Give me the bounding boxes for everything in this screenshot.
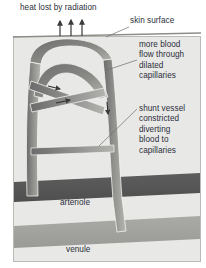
arteriole-label: arteriole (60, 198, 90, 208)
diagram-figure: heat lost by radiation skin surface more… (0, 0, 206, 268)
venule-label: venule (66, 245, 90, 255)
heat-loss-label: heat lost by radiation (20, 3, 97, 13)
dilated-capillaries-label: more blood flow through dilated capillar… (139, 40, 184, 82)
heat-radiation-arrows (60, 20, 82, 36)
skin-surface-label: skin surface (130, 16, 174, 26)
shunt-vessel-label: shunt vessel constricted diverting blood… (139, 104, 185, 156)
leader-skin-surface (106, 27, 129, 37)
